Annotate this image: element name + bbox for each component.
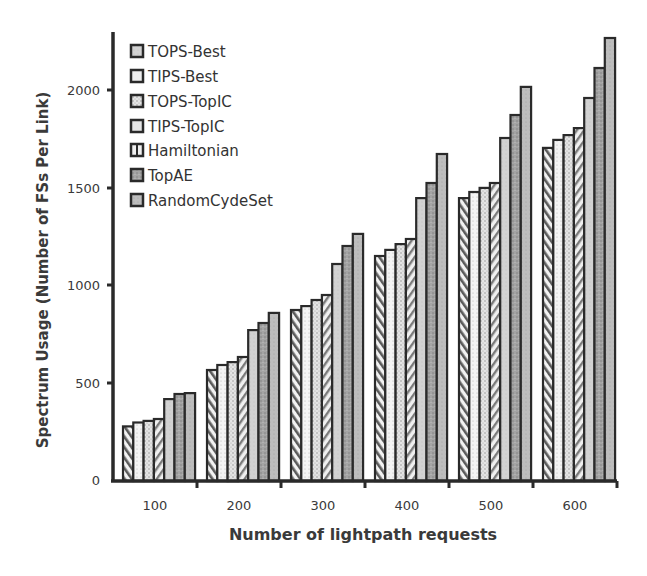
legend-item-topae: TopAE xyxy=(131,167,193,185)
y-axis-label: Spectrum Usage (Number of FSs Per Link) xyxy=(34,92,52,449)
legend-label: TIPS-TopIC xyxy=(147,118,224,136)
bar-tips-topic-500 xyxy=(490,183,500,481)
bar-randomcydeset-600 xyxy=(605,38,615,481)
bar-tops-best-300 xyxy=(291,310,301,481)
x-tick-label: 100 xyxy=(143,498,168,513)
x-tick-label: 600 xyxy=(563,498,588,513)
x-tick-labels: 100 200 300 400 500 600 xyxy=(143,498,588,513)
bar-tips-topic-400 xyxy=(406,239,416,481)
bar-tips-best-200 xyxy=(217,365,227,481)
bar-randomcydeset-400 xyxy=(437,154,447,481)
bar-topae-300 xyxy=(343,246,353,481)
bar-tips-best-100 xyxy=(133,423,143,482)
bar-randomcydeset-200 xyxy=(269,313,279,481)
bar-hamiltonian-500 xyxy=(500,138,510,481)
x-tick-label: 400 xyxy=(395,498,420,513)
legend-label: Hamiltonian xyxy=(148,142,239,160)
bar-randomcydeset-300 xyxy=(353,234,363,481)
legend-label: TIPS-Best xyxy=(147,68,218,86)
y-tick-labels: 0 500 1000 1500 2000 xyxy=(67,83,100,488)
bar-topae-400 xyxy=(427,183,437,481)
legend-swatch xyxy=(131,45,143,57)
x-tick-label: 500 xyxy=(479,498,504,513)
bar-topae-200 xyxy=(259,323,269,481)
bar-tops-best-600 xyxy=(543,148,553,481)
bar-tops-best-500 xyxy=(459,198,469,481)
bar-tops-best-100 xyxy=(123,426,133,481)
bar-tops-topic-200 xyxy=(228,362,238,481)
y-tick-label: 1000 xyxy=(67,278,100,293)
bar-tips-best-500 xyxy=(469,192,479,481)
legend-item-hamiltonian: Hamiltonian xyxy=(131,142,239,160)
y-tick-label: 1500 xyxy=(67,181,100,196)
bar-hamiltonian-100 xyxy=(164,399,174,481)
bar-hamiltonian-600 xyxy=(584,98,594,481)
legend-swatch xyxy=(131,70,143,82)
bar-tips-topic-100 xyxy=(154,419,164,481)
bar-topae-100 xyxy=(175,394,185,481)
bar-tops-topic-300 xyxy=(312,300,322,481)
bar-hamiltonian-200 xyxy=(248,330,258,481)
x-tick-label: 300 xyxy=(311,498,336,513)
y-tick-label: 0 xyxy=(92,473,100,488)
bar-hamiltonian-300 xyxy=(332,264,342,481)
bar-tops-topic-400 xyxy=(396,244,406,481)
bar-tips-best-600 xyxy=(553,140,563,481)
x-tick-label: 200 xyxy=(227,498,252,513)
bar-tips-topic-600 xyxy=(574,128,584,481)
legend-swatch xyxy=(131,169,143,181)
legend-item-tops-topic: TOPS-TopIC xyxy=(131,93,232,111)
bar-tops-topic-500 xyxy=(480,188,490,481)
x-axis-label: Number of lightpath requests xyxy=(229,525,497,544)
bar-tops-topic-600 xyxy=(564,135,574,481)
bar-tops-best-400 xyxy=(375,256,385,481)
legend-label: TOPS-TopIC xyxy=(147,93,232,111)
legend-item-randomcycleset: RandomCydeSet xyxy=(131,192,273,210)
bar-tops-best-200 xyxy=(207,370,217,481)
bar-hamiltonian-400 xyxy=(416,198,426,481)
legend-label: RandomCydeSet xyxy=(148,192,273,210)
bar-tips-topic-300 xyxy=(322,295,332,481)
bar-topae-500 xyxy=(511,115,521,481)
legend-swatch xyxy=(131,194,143,206)
legend-swatch xyxy=(131,95,143,107)
bar-tips-best-300 xyxy=(301,306,311,481)
legend-label: TOPS-Best xyxy=(147,43,226,61)
bar-topae-600 xyxy=(595,68,605,481)
legend-swatch xyxy=(131,120,143,132)
bar-tops-topic-100 xyxy=(144,421,154,481)
bar-chart: Spectrum Usage (Number of FSs Per Link) … xyxy=(0,0,647,576)
legend: TOPS-Best TIPS-Best TOPS-TopIC TIPS-TopI… xyxy=(131,43,273,210)
y-tick-label: 500 xyxy=(75,376,100,391)
bar-tips-topic-200 xyxy=(238,357,248,481)
y-tick-label: 2000 xyxy=(67,83,100,98)
legend-item-tips-topic: TIPS-TopIC xyxy=(131,118,224,136)
bar-randomcydeset-500 xyxy=(521,87,531,481)
legend-item-tips-best: TIPS-Best xyxy=(131,68,218,86)
bar-randomcydeset-100 xyxy=(185,393,195,481)
legend-label: TopAE xyxy=(147,167,193,185)
legend-item-tops-best: TOPS-Best xyxy=(131,43,226,61)
bar-tips-best-400 xyxy=(385,250,395,481)
